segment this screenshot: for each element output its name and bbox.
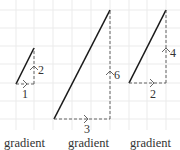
rise-value-3: 4 bbox=[170, 46, 176, 60]
caption-1: gradient bbox=[4, 136, 45, 150]
triangle-1: 1 2 bbox=[16, 48, 44, 101]
caption-3: gradient bbox=[130, 136, 171, 150]
caption-2: gradient bbox=[68, 136, 109, 150]
background-grid bbox=[0, 0, 180, 130]
run-value-1: 1 bbox=[22, 87, 28, 101]
slope-line-1 bbox=[16, 48, 34, 84]
triangle-3: 2 4 bbox=[129, 10, 176, 101]
triangle-2: 3 6 bbox=[54, 10, 120, 136]
rise-value-2: 6 bbox=[114, 68, 120, 82]
rise-value-1: 2 bbox=[38, 63, 44, 77]
run-value-2: 3 bbox=[84, 122, 90, 136]
run-value-3: 2 bbox=[150, 87, 156, 101]
gradient-diagram: 1 2 3 6 2 4 gradient gradient gradient bbox=[0, 0, 180, 150]
